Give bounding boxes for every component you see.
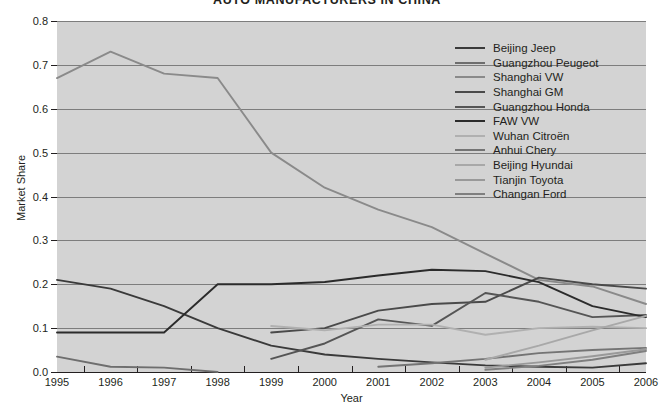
- legend-swatch-icon: [455, 149, 485, 151]
- legend-label: Shanghai GM: [493, 86, 563, 98]
- legend-label: Guangzhou Honda: [493, 101, 590, 113]
- legend-label: Guangzhou Peugeot: [493, 57, 599, 69]
- series-line: [271, 325, 646, 335]
- legend-swatch-icon: [455, 179, 485, 181]
- x-axis-title: Year: [57, 392, 646, 404]
- legend-item[interactable]: Guangzhou Peugeot: [455, 56, 599, 71]
- legend-item[interactable]: Tianjin Toyota: [455, 172, 599, 187]
- legend: Beijing JeepGuangzhou PeugeotShanghai VW…: [455, 41, 599, 202]
- legend-item[interactable]: Anhui Chery: [455, 143, 599, 158]
- legend-label: Beijing Jeep: [493, 42, 556, 54]
- legend-swatch-icon: [455, 193, 485, 195]
- legend-swatch-icon: [455, 47, 485, 49]
- legend-label: Shanghai VW: [493, 71, 563, 83]
- legend-item[interactable]: Changan Ford: [455, 187, 599, 202]
- series-line: [57, 357, 218, 372]
- legend-item[interactable]: Beijing Jeep: [455, 41, 599, 56]
- legend-swatch-icon: [455, 62, 485, 64]
- legend-swatch-icon: [455, 164, 485, 166]
- legend-item[interactable]: FAW VW: [455, 114, 599, 129]
- legend-item[interactable]: Beijing Hyundai: [455, 158, 599, 173]
- legend-label: Beijing Hyundai: [493, 159, 573, 171]
- legend-label: Anhui Chery: [493, 144, 556, 156]
- legend-swatch-icon: [455, 120, 485, 122]
- y-axis-title: Market Share: [15, 143, 27, 233]
- legend-swatch-icon: [455, 76, 485, 78]
- legend-label: Changan Ford: [493, 188, 567, 200]
- series-line: [57, 280, 646, 368]
- legend-label: Wuhan Citroën: [493, 130, 570, 142]
- legend-item[interactable]: Shanghai GM: [455, 85, 599, 100]
- legend-item[interactable]: Shanghai VW: [455, 70, 599, 85]
- legend-swatch-icon: [455, 91, 485, 93]
- legend-item[interactable]: Wuhan Citroën: [455, 129, 599, 144]
- legend-label: Tianjin Toyota: [493, 174, 563, 186]
- legend-swatch-icon: [455, 106, 485, 108]
- legend-label: FAW VW: [493, 115, 539, 127]
- legend-item[interactable]: Guangzhou Honda: [455, 99, 599, 114]
- legend-swatch-icon: [455, 135, 485, 137]
